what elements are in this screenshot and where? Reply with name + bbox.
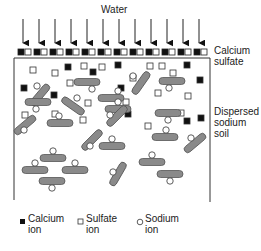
legend-label: ion xyxy=(28,224,64,235)
sulfate-ion-icon xyxy=(78,219,83,224)
legend-sodium-ion: Sodium ion xyxy=(145,213,179,235)
sodium-ion-icon xyxy=(137,219,143,225)
legend-calcium-ion: Calcium ion xyxy=(28,213,64,235)
legend-label: Calcium xyxy=(28,213,64,224)
legend-sulfate-ion: Sulfate ion xyxy=(86,213,117,235)
calcium-sulfate-band xyxy=(18,49,207,55)
legend-label: ion xyxy=(86,224,117,235)
legend-label: Sodium xyxy=(145,213,179,224)
water-arrows xyxy=(23,19,199,43)
clay-particles xyxy=(13,70,207,187)
legend-label: ion xyxy=(145,224,179,235)
calcium-ion-icon xyxy=(20,219,25,224)
legend-label: Sulfate xyxy=(86,213,117,224)
